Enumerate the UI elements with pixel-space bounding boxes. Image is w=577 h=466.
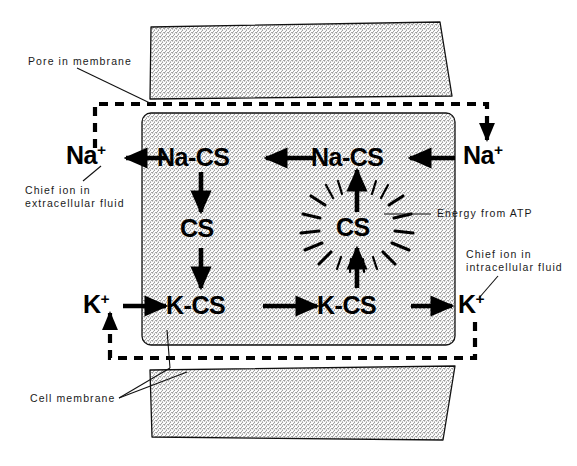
callout-chief-ion-intracellular: Chief ion in intracellular fluid (466, 248, 563, 274)
species-na-cs-right: Na-CS (311, 143, 384, 172)
lower-membrane-block (150, 366, 455, 440)
callout-cell-membrane: Cell membrane (30, 392, 116, 405)
species-na-extracellular-left: Na+ (66, 141, 106, 170)
diagram-canvas: Na+ Na-CS Na-CS Na+ CS CS K+ K-CS K-CS K… (0, 0, 577, 466)
leader-pore (77, 68, 152, 104)
species-k-extracellular-right: K+ (458, 290, 485, 319)
species-na-cs-left: Na-CS (157, 143, 230, 172)
callout-pore-in-membrane: Pore in membrane (28, 55, 132, 68)
species-k-cs-right: K-CS (317, 291, 376, 320)
callout-chief-ion-extracellular: Chief ion in extracellular fluid (25, 184, 125, 210)
species-cs-free: CS (180, 214, 214, 243)
upper-membrane-block (150, 22, 452, 99)
species-k-cs-left: K-CS (166, 291, 225, 320)
species-cs-energized: CS (336, 213, 370, 242)
species-k-intracellular-left: K+ (83, 290, 110, 319)
species-na-intracellular-right: Na+ (463, 141, 503, 170)
callout-energy-from-atp: Energy from ATP (437, 207, 533, 220)
